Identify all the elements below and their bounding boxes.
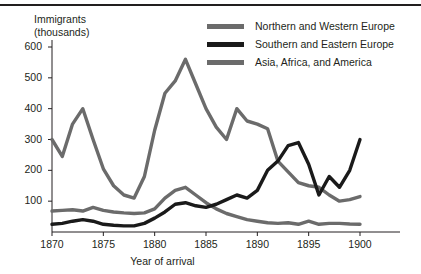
y-tick-label: 200 [12, 163, 42, 175]
x-tick-label: 1890 [237, 238, 277, 250]
plot-area [0, 0, 421, 274]
x-tick-label: 1880 [135, 238, 175, 250]
y-tick-label: 300 [12, 133, 42, 145]
x-tick-label: 1870 [32, 238, 72, 250]
immigration-chart-figure: Immigrants (thousands) Northern and West… [0, 0, 421, 274]
x-tick-label: 1875 [83, 238, 123, 250]
y-tick-label: 400 [12, 102, 42, 114]
y-tick-label: 500 [12, 71, 42, 83]
plot-svg [0, 0, 421, 274]
x-axis-title-text: Year of arrival [130, 255, 194, 267]
y-tick-label: 600 [12, 40, 42, 52]
y-tick-label: 100 [12, 194, 42, 206]
x-tick-label: 1900 [340, 238, 380, 250]
x-tick-label: 1885 [186, 238, 226, 250]
x-axis-title: Year of arrival [0, 255, 421, 267]
x-tick-label: 1895 [289, 238, 329, 250]
